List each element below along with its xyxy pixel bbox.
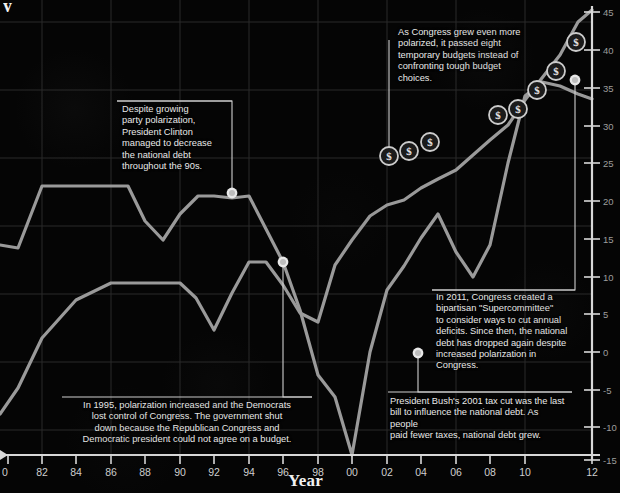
coin-label: $ [386, 150, 392, 162]
y-tick-label: 10 [603, 272, 614, 283]
data-point-marker-2002 [413, 348, 424, 359]
x-tick-label: 0 [2, 466, 8, 478]
coin-label: $ [515, 103, 521, 115]
x-tick-label: 94 [243, 466, 255, 478]
data-point-marker-2011 [570, 75, 581, 86]
x-tick-label: 06 [450, 466, 462, 478]
y-tick-label: -15 [603, 455, 617, 466]
y-tick-label: 25 [603, 158, 614, 169]
annotation-bush: President Bush's 2001 tax cut was the la… [390, 396, 565, 442]
data-point-marker-1992 [227, 188, 238, 199]
dollar-coin-marker: $ [528, 81, 546, 99]
coin-label: $ [573, 36, 579, 48]
coin-label: $ [553, 65, 559, 77]
data-point-marker-1996 [278, 257, 289, 268]
dollar-coin-marker: $ [567, 33, 585, 51]
x-tick-label: 92 [208, 466, 220, 478]
coin-label: $ [427, 136, 433, 148]
y-axis: 45 40 35 30 25 20 15 10 5 0 -5 -10 -15 [584, 6, 617, 466]
y-tick-label: 45 [603, 7, 614, 18]
x-tick-label: 00 [346, 466, 358, 478]
x-tick-label: 02 [381, 466, 393, 478]
x-tick-label: 82 [36, 466, 48, 478]
y-tick-label: 0 [603, 347, 608, 358]
y-tick-label: 30 [603, 121, 614, 132]
x-tick-label: 08 [484, 466, 496, 478]
x-tick-label: 04 [415, 466, 427, 478]
annotation-2011: In 2011, Congress created a bipartisan "… [436, 292, 570, 372]
annotation-clinton: Despite growing party polarization, Pres… [122, 104, 230, 172]
coin-label: $ [495, 109, 501, 121]
y-tick-label: -5 [603, 385, 611, 396]
x-tick-label: 86 [105, 466, 117, 478]
clipped-corner-glyph: y [3, 0, 19, 12]
dollar-coin-marker: $ [509, 100, 527, 118]
coin-label: $ [406, 145, 412, 157]
dollar-coin-marker: $ [380, 147, 398, 165]
y-tick-label: 40 [603, 45, 614, 56]
dollar-coin-marker: $ [489, 106, 507, 124]
annotation-congress: As Congress grew even more polarized, it… [398, 27, 530, 84]
x-tick-label: 90 [174, 466, 186, 478]
y-tick-label: 20 [603, 196, 614, 207]
dollar-coin-marker: $ [400, 142, 418, 160]
x-tick-label: 84 [70, 466, 82, 478]
y-tick-label: 35 [603, 83, 614, 94]
coin-label: $ [534, 84, 540, 96]
annotation-1995: In 1995, polarization increased and the … [62, 400, 312, 446]
y-tick-label: 15 [603, 234, 614, 245]
x-tick-label: 10 [519, 466, 531, 478]
x-tick-label: 12 [586, 466, 598, 478]
dollar-coin-marker: $ [547, 62, 565, 80]
dollar-coin-marker: $ [421, 133, 439, 151]
y-tick-label: 5 [603, 309, 608, 320]
chart-canvas: $ $ $ $ $ $ $ $ [0, 0, 620, 493]
x-axis-title: Year [288, 471, 323, 491]
x-tick-label: 88 [139, 466, 151, 478]
y-tick-label: -10 [603, 422, 617, 433]
